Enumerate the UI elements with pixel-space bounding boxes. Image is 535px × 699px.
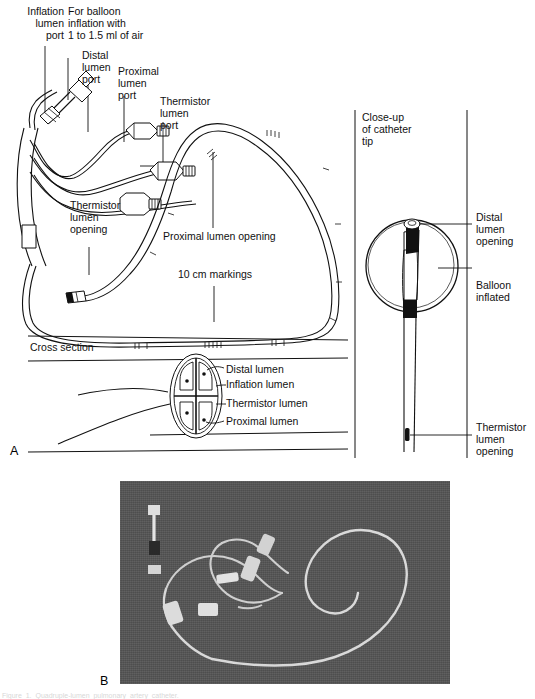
label-inflation-lumen-port: Inflation lumen port <box>4 6 64 41</box>
thermistor-lumen-opening-tip <box>66 291 86 303</box>
label-cs-proximal-lumen: Proximal lumen <box>226 416 336 428</box>
label-thermistor-lumen-port: Thermistor lumen port <box>160 96 232 131</box>
label-balloon-inflation-note: For balloon inflation with 1 to 1.5 ml o… <box>68 6 180 41</box>
panel-letter-a: A <box>10 444 18 458</box>
figure-root: Inflation lumen port For balloon inflati… <box>0 0 535 699</box>
cross-section-guide-curves <box>58 388 170 444</box>
cut-off-caption: Figure 1. Quadruple-lumen pulmonary arte… <box>2 692 179 699</box>
label-balloon-inflated: Balloon inflated <box>476 280 534 304</box>
label-closeup-title: Close-up of catheter tip <box>362 112 458 147</box>
label-distal-lumen-opening: Distal lumen opening <box>476 212 534 247</box>
label-proximal-lumen-opening: Proximal lumen opening <box>163 231 323 243</box>
closeup-panel <box>355 110 472 458</box>
label-ten-cm-markings: 10 cm markings <box>178 269 298 281</box>
label-thermistor-lumen-opening: Thermistor lumen opening <box>70 200 150 235</box>
label-thermistor-lumen-opening-tip: Thermistor lumen opening <box>476 422 534 457</box>
label-cross-section: Cross section <box>30 342 140 354</box>
panel-b-photograph <box>120 481 450 684</box>
label-cs-inflation-lumen: Inflation lumen <box>226 379 336 391</box>
catheter-hub-body <box>17 128 46 266</box>
label-cs-thermistor-lumen: Thermistor lumen <box>226 398 342 410</box>
photo-catheter-overlay <box>120 481 450 684</box>
panel-letter-b: B <box>100 674 108 688</box>
label-cs-distal-lumen: Distal lumen <box>226 364 336 376</box>
